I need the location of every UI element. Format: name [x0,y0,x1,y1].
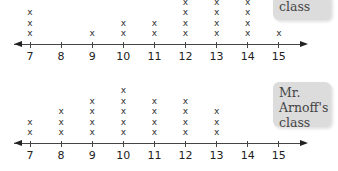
tick-label: 7 [18,149,42,162]
x-mark: x [212,107,222,116]
x-mark: x [149,128,159,137]
class-label-line: Mr. [279,85,325,100]
x-mark: x [56,107,66,116]
bottom-dot-plot: 789101112131415 xxxxxxxxxxxxxxxxxxxxxxxx… [0,0,338,171]
x-mark: x [212,128,222,137]
x-mark: x [212,118,222,127]
tick-mark [92,141,93,147]
tick-label: 15 [267,149,291,162]
class-label-line: Arnoff's [279,100,325,115]
x-mark: x [149,118,159,127]
tick-mark [123,141,124,147]
tick-label: 13 [205,149,229,162]
arrow-right-icon [300,140,308,146]
x-mark: x [181,118,191,127]
class-label-box: Mr. Arnoff's class [273,82,331,127]
x-mark: x [87,128,97,137]
tick-mark [247,141,248,147]
tick-mark [185,141,186,147]
x-mark: x [118,97,128,106]
x-mark: x [87,107,97,116]
x-mark: x [181,107,191,116]
x-mark: x [87,118,97,127]
arrow-left-icon [14,140,22,146]
x-mark: x [149,97,159,106]
class-label-line: class [279,115,325,130]
tick-mark [30,141,31,147]
tick-label: 8 [49,149,73,162]
tick-label: 9 [80,149,104,162]
x-mark: x [25,128,35,137]
tick-label: 11 [142,149,166,162]
x-mark: x [87,97,97,106]
tick-mark [278,141,279,147]
x-mark: x [56,128,66,137]
x-mark: x [25,118,35,127]
tick-mark [154,141,155,147]
x-mark: x [181,97,191,106]
x-mark: x [149,107,159,116]
x-mark: x [118,86,128,95]
x-mark: x [118,118,128,127]
tick-label: 10 [111,149,135,162]
x-mark: x [181,128,191,137]
tick-label: 14 [236,149,260,162]
x-mark: x [56,118,66,127]
x-mark: x [118,107,128,116]
number-line [14,143,306,145]
tick-mark [216,141,217,147]
x-mark: x [118,128,128,137]
tick-mark [61,141,62,147]
tick-label: 12 [174,149,198,162]
